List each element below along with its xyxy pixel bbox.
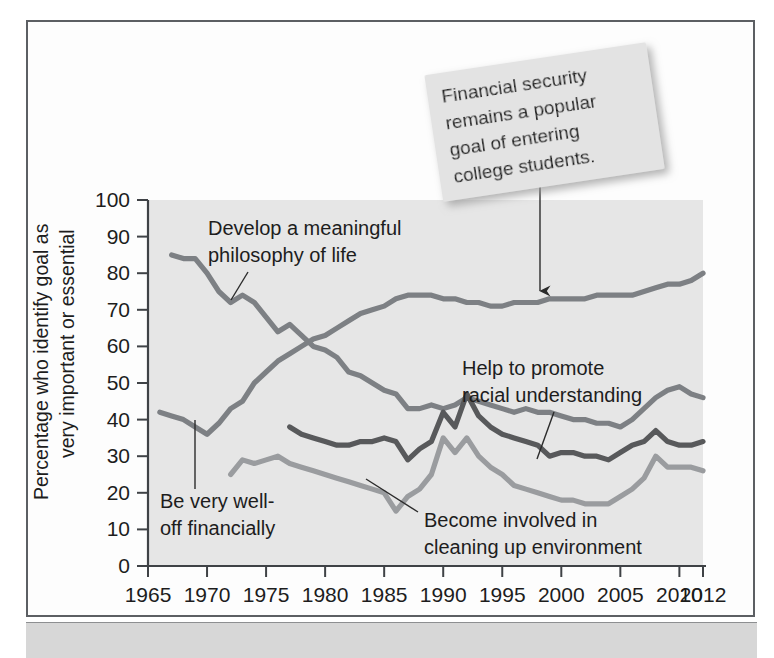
- annotation-philosophy-line-1: Develop a meaningful: [208, 217, 401, 239]
- y-tick-label: 30: [107, 444, 130, 467]
- y-axis-title: Percentage who identify goal as very imp…: [30, 223, 78, 500]
- x-axis-ticks: [148, 566, 703, 577]
- y-tick-label: 90: [107, 225, 130, 248]
- x-tick-label: 1980: [302, 583, 349, 606]
- callout-note: Financial security remains a popular goa…: [424, 42, 664, 202]
- y-axis-title-line-2: very important or essential: [56, 229, 78, 458]
- y-tick-label: 100: [95, 188, 130, 211]
- y-tick-label: 50: [107, 371, 130, 394]
- annotation-racial-line-1: Help to promote: [462, 357, 604, 379]
- x-tick-label: 2005: [597, 583, 644, 606]
- x-tick-label: 1995: [479, 583, 526, 606]
- annotation-financial-line-1: Be very well-: [160, 490, 274, 512]
- annotation-philosophy-line-2: philosophy of life: [208, 244, 357, 266]
- y-tick-label: 20: [107, 481, 130, 504]
- x-tick-label: 2012: [680, 583, 727, 606]
- y-axis-ticks: [137, 200, 148, 566]
- annotation-environment-line-1: Become involved in: [424, 509, 597, 531]
- annotation-environment-line-2: cleaning up environment: [424, 536, 642, 558]
- x-axis-tick-labels: 1965197019751980198519901995200020052010…: [125, 583, 727, 606]
- y-tick-label: 40: [107, 408, 130, 431]
- annotation-financial-line-2: off financially: [160, 517, 275, 539]
- x-tick-label: 1985: [361, 583, 408, 606]
- x-tick-label: 1990: [420, 583, 467, 606]
- y-axis-title-line-1: Percentage who identify goal as: [30, 223, 52, 500]
- x-tick-label: 1970: [184, 583, 231, 606]
- x-tick-label: 1965: [125, 583, 172, 606]
- y-axis-tick-labels: 0102030405060708090100: [95, 188, 130, 577]
- y-tick-label: 70: [107, 298, 130, 321]
- y-tick-label: 60: [107, 334, 130, 357]
- y-tick-label: 10: [107, 517, 130, 540]
- x-tick-label: 2000: [538, 583, 585, 606]
- x-tick-label: 1975: [243, 583, 290, 606]
- y-tick-label: 0: [118, 554, 130, 577]
- annotation-racial-line-2: racial understanding: [462, 384, 642, 406]
- y-tick-label: 80: [107, 261, 130, 284]
